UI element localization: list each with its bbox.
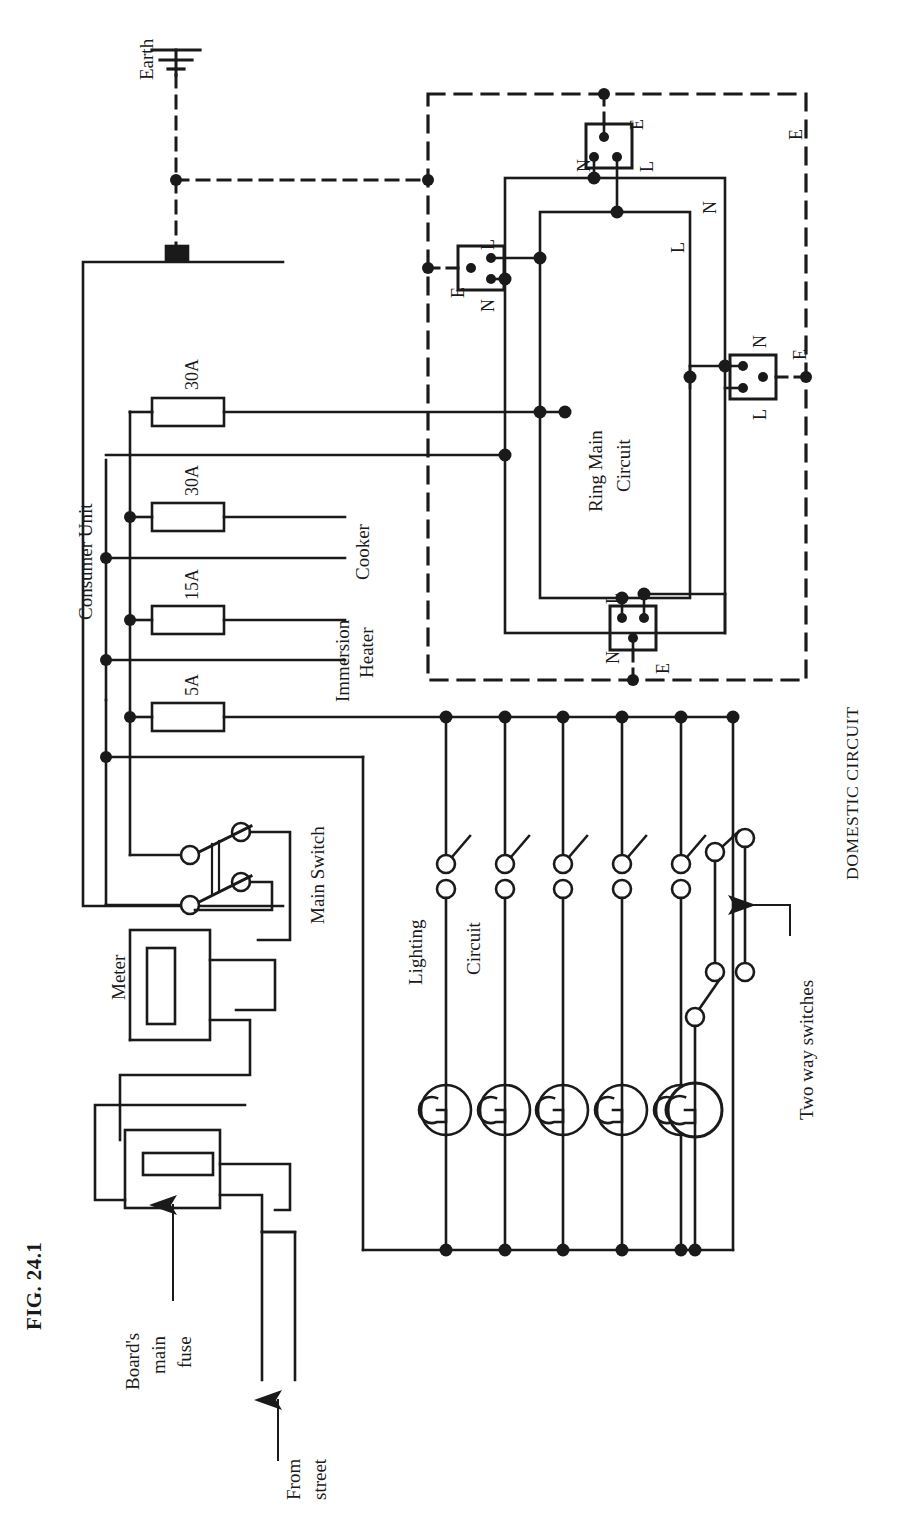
ring-tap-live	[559, 406, 572, 419]
socket-right-label-l: L	[750, 409, 771, 420]
wire-switch-to-meter-1	[250, 832, 290, 940]
fuse-rating-30a-ring: 30A	[182, 359, 203, 390]
domestic-circuit-schematic	[0, 0, 900, 1524]
board-main-fuse-element	[143, 1153, 213, 1175]
fuse-rating-15a: 15A	[182, 569, 203, 600]
from-street-line1: From	[283, 1459, 305, 1500]
board-main-fuse-box	[125, 1130, 220, 1208]
main-switch-terminal-l-in	[181, 846, 199, 864]
figure-caption: DOMESTIC CIRCUIT	[842, 707, 863, 880]
from-street-line2: street	[309, 1459, 331, 1500]
board-fuse-label-line2: main	[148, 1336, 170, 1374]
socket-top-label-l: L	[637, 161, 658, 172]
earth-terminal	[166, 246, 188, 260]
socket-top-label-e: E	[627, 119, 648, 130]
main-switch-label: Main Switch	[307, 826, 329, 924]
socket-left-label-l: L	[478, 239, 499, 250]
ring-bus-label-n: N	[700, 201, 721, 214]
meter-label: Meter	[108, 955, 130, 1000]
cooker-label: Cooker	[352, 524, 374, 580]
socket-bottom-label-l: L	[603, 593, 624, 604]
ring-loop-neutral	[505, 178, 725, 633]
fuse-rating-5a: 5A	[182, 674, 203, 696]
figure-page: FIG. 24.1 Earth Consumer Unit 30A 30A 15…	[0, 0, 900, 1524]
board-fuse-label-line3: fuse	[174, 1336, 196, 1368]
ring-loop-live	[540, 212, 690, 598]
socket-bottom-label-n: N	[603, 651, 624, 664]
wire-meter-out-2	[120, 1020, 250, 1140]
socket-bottom-label-e: E	[653, 663, 674, 674]
earth-dot-left	[422, 262, 434, 274]
earth-boundary-label: E	[786, 129, 807, 140]
fuse-15a-immersion	[152, 606, 224, 634]
socket-right	[684, 355, 777, 399]
socket-top-label-n: N	[574, 159, 595, 172]
service-cable-outer	[262, 1232, 295, 1380]
immersion-label-line1: Immersion	[332, 620, 354, 702]
figure-number: FIG. 24.1	[22, 1242, 47, 1330]
board-fuse-label-line1: Board's	[122, 1333, 144, 1390]
ring-tap-neutral	[499, 449, 512, 462]
ring-main-title-line1: Ring Main	[585, 430, 607, 512]
two-way-switches-label: Two way switches	[796, 980, 818, 1120]
earth-junction-dot	[170, 174, 182, 186]
socket-right-label-e: E	[790, 349, 811, 360]
wire-fuse-out-2	[220, 1195, 262, 1230]
meter-display	[147, 948, 175, 1024]
fuse-30a-ring	[152, 398, 224, 426]
socket-right-label-n: N	[750, 335, 771, 348]
immersion-label-line2: Heater	[356, 627, 378, 678]
earth-dot-right	[800, 371, 812, 383]
lighting-label-line2: Circuit	[463, 922, 485, 975]
ring-main-title-line2: Circuit	[613, 439, 635, 492]
consumer-unit-title: Consumer Unit	[75, 503, 97, 620]
wire-meter-out-1	[210, 960, 275, 1010]
socket-left	[458, 246, 547, 290]
two-way-switch-b-common	[686, 1008, 704, 1026]
two-way-switch-branch	[666, 711, 754, 1257]
lighting-label-line1: Lighting	[405, 920, 427, 985]
ring-bus-label-l: L	[668, 242, 689, 253]
fuse-5a-lighting	[152, 703, 224, 731]
socket-left-label-e: E	[448, 287, 469, 298]
earth-dot-top	[598, 88, 610, 100]
fuse-30a-cooker	[152, 503, 224, 531]
ring-live-dot	[534, 406, 547, 419]
lighting-branches	[419, 711, 706, 1257]
wire-fuse-out-1	[220, 1164, 290, 1210]
earth-label: Earth	[136, 39, 158, 80]
earth-dot-bottom	[627, 674, 639, 686]
socket-left-label-n: N	[478, 299, 499, 312]
fuse-rating-30a-cooker: 30A	[182, 465, 203, 496]
earth-lead	[176, 75, 428, 248]
